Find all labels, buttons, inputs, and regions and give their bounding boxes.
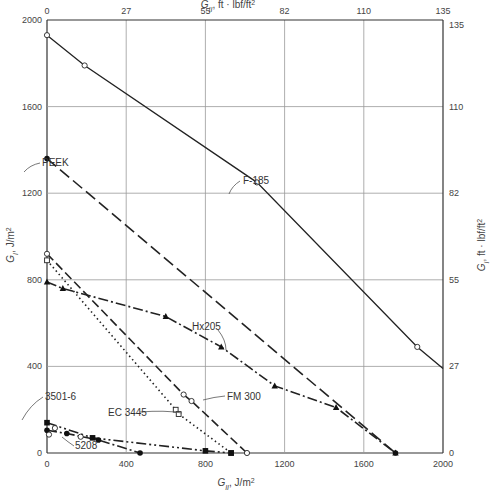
marker-filled-circle xyxy=(64,431,70,437)
svg-text:5208: 5208 xyxy=(75,440,98,451)
marker-open-circle xyxy=(44,33,49,38)
x-tick-label: 1600 xyxy=(354,459,374,469)
series-line-hx205 xyxy=(47,282,395,453)
marker-filled-triangle xyxy=(44,278,50,284)
y-tick-label: 1200 xyxy=(22,188,42,198)
marker-open-circle xyxy=(44,251,49,256)
x-tick-label: 1200 xyxy=(275,459,295,469)
annotation-fm300: FM 300 xyxy=(203,391,261,402)
series-line-peek xyxy=(47,159,395,453)
y2-tick-label: 27 xyxy=(449,361,459,371)
marker-open-circle xyxy=(78,434,83,439)
x-axis-top-label: GII, ft · lbf/ft2 xyxy=(201,0,256,13)
y-tick-label: 800 xyxy=(27,275,42,285)
y-axis-left-label: GI, J/m2 xyxy=(5,227,19,262)
marker-open-circle xyxy=(244,450,249,455)
annotation-f185: F-185 xyxy=(229,175,270,194)
annotation-3501-6: 3501-6 xyxy=(22,391,77,420)
y-tick-label: 400 xyxy=(27,361,42,371)
series-line-fm-300 xyxy=(47,254,247,453)
svg-text:Hx205: Hx205 xyxy=(192,321,221,332)
y2-tick-label: 135 xyxy=(449,20,464,30)
marker-filled-circle xyxy=(137,450,143,456)
marker-open-circle xyxy=(46,432,51,437)
y-tick-label: 0 xyxy=(37,448,42,458)
x2-tick-label: 82 xyxy=(280,6,290,16)
x2-tick-label: 0 xyxy=(44,6,49,16)
svg-text:PEEK: PEEK xyxy=(42,157,69,168)
y2-tick-label: 110 xyxy=(449,102,463,112)
marker-open-circle xyxy=(52,426,57,431)
svg-text:EC 3445: EC 3445 xyxy=(108,407,147,418)
grid xyxy=(47,20,443,453)
y-axis-right-label: GI, ft · lbf/ft2 xyxy=(476,219,490,272)
annotation-ec3445: EC 3445 xyxy=(108,407,182,418)
y-tick-label: 1600 xyxy=(22,102,42,112)
annotation-5208: 5208 xyxy=(62,437,98,451)
x-tick-label: 2000 xyxy=(433,459,453,469)
x-tick-label: 800 xyxy=(198,459,213,469)
svg-text:F-185: F-185 xyxy=(243,175,270,186)
y2-tick-label: 55 xyxy=(449,275,459,285)
svg-text:FM 300: FM 300 xyxy=(227,391,261,402)
marker-open-circle xyxy=(181,392,186,397)
marker-filled-triangle xyxy=(272,382,278,388)
series-line-f-185 xyxy=(47,35,443,368)
x2-tick-label: 110 xyxy=(357,6,371,16)
marker-filled-square xyxy=(228,450,234,456)
series-line-ec-3445 xyxy=(47,260,231,453)
y2-tick-label: 0 xyxy=(449,448,454,458)
fracture-toughness-chart: 0000400274002780055800551200821200821600… xyxy=(0,0,493,492)
x-tick-label: 400 xyxy=(119,459,134,469)
marker-open-circle xyxy=(415,344,420,349)
x2-tick-label: 27 xyxy=(121,6,131,16)
y2-tick-label: 82 xyxy=(449,188,459,198)
svg-text:3501-6: 3501-6 xyxy=(45,391,77,402)
x-axis-bottom-label: GII, J/m2 xyxy=(217,477,254,491)
marker-open-circle xyxy=(189,398,194,403)
x-tick-label: 0 xyxy=(44,459,49,469)
x2-tick-label: 135 xyxy=(435,6,450,16)
marker-open-circle xyxy=(82,63,87,68)
marker-filled-square xyxy=(44,420,50,426)
y-tick-label: 2000 xyxy=(22,15,42,25)
marker-filled-square xyxy=(203,448,209,454)
marker-open-square xyxy=(45,258,50,263)
